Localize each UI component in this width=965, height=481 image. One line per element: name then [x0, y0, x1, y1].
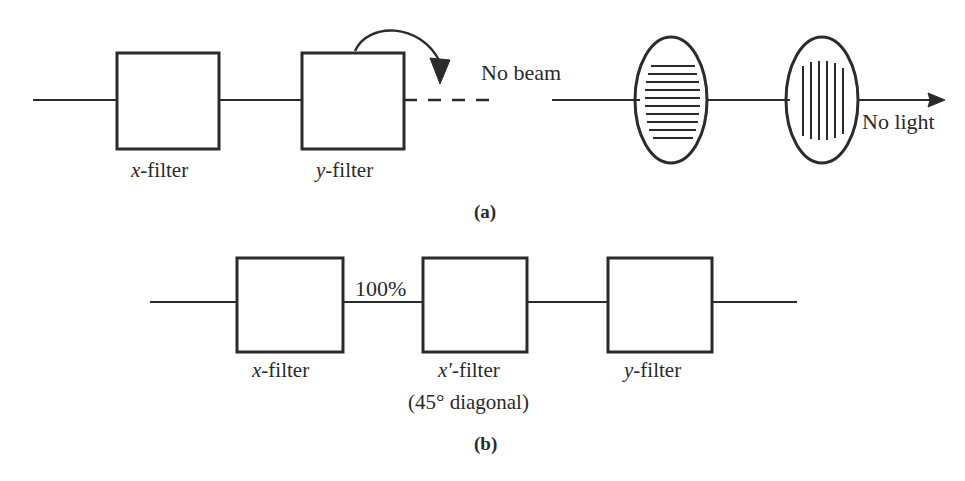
x-filter-var-a: x [131, 158, 140, 182]
transmission-percent-label: 100% [355, 278, 406, 300]
y-filter-var-a: y [316, 158, 325, 182]
no-beam-label: No beam [481, 62, 561, 84]
horizontal-polarizer-ellipse [635, 37, 707, 163]
y-filter-suffix-b: -filter [633, 358, 681, 382]
curved-rotation-arrowhead [430, 58, 450, 84]
panel-label-a: (a) [474, 202, 496, 221]
polarization-filter-figure: x-filter y-filter No beam No light (a) 1… [0, 0, 965, 481]
x-filter-label-b: x-filter [252, 360, 309, 381]
output-arrowhead-a [928, 93, 945, 107]
vertical-polarizer-ellipse [786, 37, 858, 163]
x-filter-var-b: x [252, 358, 261, 382]
y-filter-suffix-a: -filter [325, 158, 373, 182]
curved-rotation-arrow [355, 30, 440, 62]
y-filter-box-b [608, 258, 712, 352]
panel-label-b: (b) [474, 434, 497, 453]
diagonal-angle-label: (45° diagonal) [408, 392, 529, 413]
y-filter-box-a [302, 53, 404, 149]
x-filter-suffix-a: -filter [140, 158, 188, 182]
x-filter-box-a [117, 53, 219, 149]
no-light-label: No light [862, 111, 935, 133]
horizontal-polarizer-lines [645, 66, 700, 138]
y-filter-label-a: y-filter [316, 160, 373, 181]
x-prime-filter-box-b [423, 258, 527, 352]
x-prime-filter-var-b: x′ [438, 358, 452, 382]
x-prime-filter-suffix-b: -filter [452, 358, 500, 382]
x-prime-filter-label-b: x′-filter [438, 360, 500, 381]
x-filter-label-a: x-filter [131, 160, 188, 181]
x-filter-box-b [237, 258, 343, 352]
y-filter-var-b: y [624, 358, 633, 382]
x-filter-suffix-b: -filter [261, 358, 309, 382]
y-filter-label-b: y-filter [624, 360, 681, 381]
vertical-polarizer-lines [803, 61, 843, 140]
